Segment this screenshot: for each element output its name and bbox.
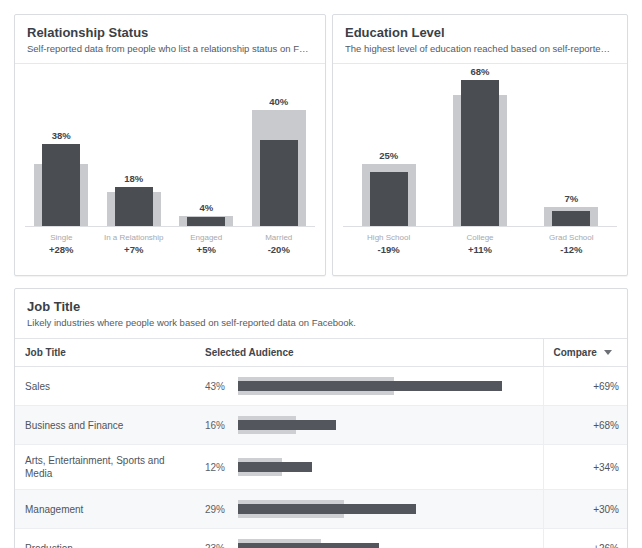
bar-selected-audience [115, 187, 153, 226]
x-axis-delta-label: -19% [343, 243, 434, 256]
bar-value-label: 4% [170, 202, 243, 213]
bar-selected-audience [260, 140, 298, 226]
chart-relationship-status: 38%18%4%40% Single+28%In a Relationship+… [15, 63, 325, 275]
audience-bar-cell: 29% [205, 499, 533, 519]
cell-compare-percent: +68% [543, 406, 628, 445]
bar-group: 25% [343, 72, 434, 226]
panel-title-education-level: Education Level [345, 25, 615, 40]
cell-selected-audience: 43% [195, 367, 543, 406]
panel-job-title: Job Title Likely industries where people… [14, 288, 628, 548]
audience-insights-page: Relationship Status Self-reported data f… [0, 0, 642, 548]
cell-compare-percent: +69% [543, 367, 628, 406]
compare-sort-control[interactable]: Compare [554, 347, 612, 358]
x-axis-delta-label: +7% [98, 243, 171, 256]
bar-value-label: 38% [25, 130, 98, 141]
x-axis-delta-label: +5% [170, 243, 243, 256]
x-axis-category-label: Engaged [170, 232, 243, 243]
audience-bar-track [238, 499, 533, 519]
cell-compare-percent: +26% [543, 529, 628, 548]
bar-selected-audience [461, 80, 499, 226]
x-axis-category-label: College [434, 232, 525, 243]
table-row[interactable]: Arts, Entertainment, Sports and Media12%… [15, 445, 628, 490]
cell-selected-audience: 12% [195, 445, 543, 490]
bar-selected-audience [187, 217, 225, 226]
x-axis-delta-label: +28% [25, 243, 98, 256]
bar-value-label: 25% [343, 150, 434, 161]
audience-percent-label: 12% [205, 462, 231, 473]
column-header-selected-audience[interactable]: Selected Audience [195, 339, 543, 367]
bar-selected-audience [238, 543, 379, 548]
chevron-down-icon[interactable] [604, 350, 612, 355]
bar-selected-audience [238, 420, 336, 430]
audience-percent-label: 23% [205, 543, 231, 548]
bar-value-label: 7% [526, 193, 617, 204]
cell-job-title: Business and Finance [15, 406, 195, 445]
x-axis-category-label: Single [25, 232, 98, 243]
audience-percent-label: 29% [205, 504, 231, 515]
table-header-row: Job Title Selected Audience Compare [15, 339, 628, 367]
bar-group: 4% [170, 72, 243, 226]
panel-header-relationship-status: Relationship Status Self-reported data f… [15, 15, 325, 63]
audience-bar-track [238, 376, 533, 396]
audience-bar-cell: 23% [205, 538, 533, 548]
bar-value-label: 18% [98, 173, 171, 184]
audience-percent-label: 16% [205, 420, 231, 431]
panel-title-relationship-status: Relationship Status [27, 25, 313, 40]
job-title-table: Job Title Selected Audience Compare Sale… [15, 338, 628, 548]
x-axis-tick: Married-20% [243, 232, 316, 256]
cell-selected-audience: 16% [195, 406, 543, 445]
bar-group: 38% [25, 72, 98, 226]
x-axis-delta-label: -20% [243, 243, 316, 256]
bar-group: 18% [98, 72, 171, 226]
x-axis-category-label: Married [243, 232, 316, 243]
x-axis-delta-label: +11% [434, 243, 525, 256]
bar-selected-audience [238, 504, 416, 514]
x-axis-tick: High School-19% [343, 232, 434, 256]
x-axis-tick: Engaged+5% [170, 232, 243, 256]
x-axis-category-label: Grad School [526, 232, 617, 243]
bar-selected-audience [370, 172, 408, 226]
x-axis-tick: Single+28% [25, 232, 98, 256]
table-row[interactable]: Management29%+30% [15, 490, 628, 529]
panel-header-job-title: Job Title Likely industries where people… [15, 289, 627, 338]
table-row[interactable]: Production23%+26% [15, 529, 628, 548]
bar-selected-audience [552, 211, 590, 226]
cell-selected-audience: 29% [195, 490, 543, 529]
bar-selected-audience [42, 144, 80, 226]
panel-education-level: Education Level The highest level of edu… [332, 14, 628, 276]
x-axis-category-label: In a Relationship [98, 232, 171, 243]
cell-job-title: Management [15, 490, 195, 529]
column-header-compare[interactable]: Compare [543, 339, 628, 367]
column-header-job-title[interactable]: Job Title [15, 339, 195, 367]
panel-subtitle-job-title: Likely industries where people work base… [27, 317, 615, 329]
cell-job-title: Arts, Entertainment, Sports and Media [15, 445, 195, 490]
panel-subtitle-relationship-status: Self-reported data from people who list … [27, 43, 313, 55]
chart-x-axis-relationship-status: Single+28%In a Relationship+7%Engaged+5%… [25, 227, 315, 256]
audience-bar-track [238, 415, 533, 435]
table-row[interactable]: Sales43%+69% [15, 367, 628, 406]
cell-selected-audience: 23% [195, 529, 543, 548]
chart-education-level: 25%68%7% High School-19%College+11%Grad … [333, 63, 627, 275]
demographics-panel-row: Relationship Status Self-reported data f… [14, 14, 628, 276]
cell-job-title: Sales [15, 367, 195, 406]
bar-selected-audience [238, 381, 502, 391]
x-axis-tick: Grad School-12% [526, 232, 617, 256]
bar-value-label: 68% [434, 66, 525, 77]
panel-header-education-level: Education Level The highest level of edu… [333, 15, 627, 63]
x-axis-category-label: High School [343, 232, 434, 243]
bar-group: 40% [243, 72, 316, 226]
x-axis-delta-label: -12% [526, 243, 617, 256]
audience-bar-cell: 12% [205, 457, 533, 477]
bar-group: 7% [526, 72, 617, 226]
chart-x-axis-education-level: High School-19%College+11%Grad School-12… [343, 227, 617, 256]
chart-plot-area-relationship-status: 38%18%4%40% [25, 72, 315, 227]
audience-percent-label: 43% [205, 381, 231, 392]
bar-selected-audience [238, 462, 312, 472]
x-axis-tick: In a Relationship+7% [98, 232, 171, 256]
cell-compare-percent: +30% [543, 490, 628, 529]
job-title-table-head: Job Title Selected Audience Compare [15, 339, 628, 367]
table-row[interactable]: Business and Finance16%+68% [15, 406, 628, 445]
audience-bar-track [238, 538, 533, 548]
cell-compare-percent: +34% [543, 445, 628, 490]
cell-job-title: Production [15, 529, 195, 548]
